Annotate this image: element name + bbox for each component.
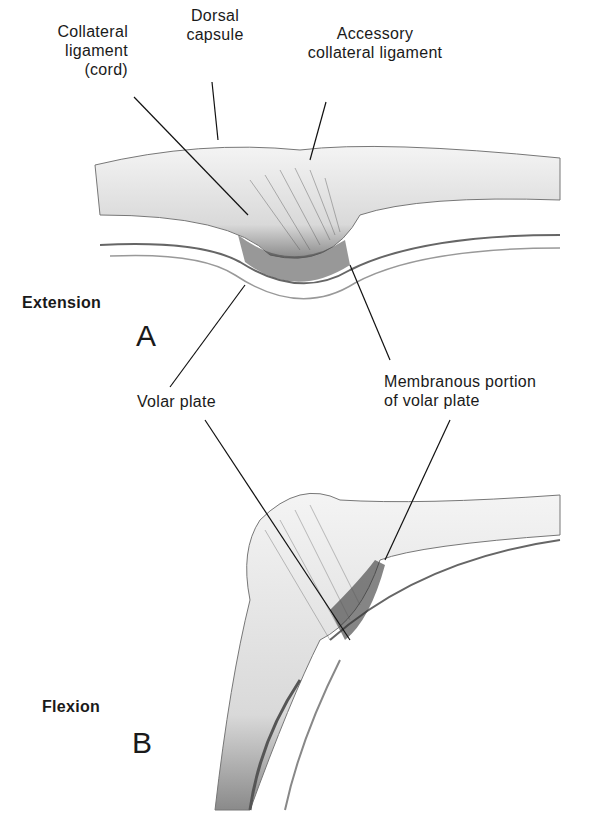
extension-label: Extension — [22, 293, 101, 312]
panel-b-letter: B — [132, 727, 152, 759]
panel-a-letter: A — [136, 320, 156, 352]
extension-joint-drawing — [95, 146, 560, 298]
flexion-label: Flexion — [42, 697, 100, 716]
flexion-joint-drawing — [215, 493, 560, 810]
dorsal-capsule-label: Dorsal capsule — [170, 6, 260, 44]
label-line: Membranous portion — [384, 372, 536, 391]
label-line: Dorsal — [170, 6, 260, 25]
label-line: (cord) — [30, 60, 128, 79]
label-line: ligament — [30, 41, 128, 60]
label-line: Accessory — [290, 24, 460, 43]
collateral-ligament-label: Collateral ligament (cord) — [30, 22, 128, 79]
membranous-portion-label: Membranous portion of volar plate — [384, 372, 536, 410]
label-line: collateral ligament — [290, 43, 460, 62]
volar-plate-label: Volar plate — [137, 392, 216, 411]
label-line: Collateral — [30, 22, 128, 41]
accessory-collateral-ligament-label: Accessory collateral ligament — [290, 24, 460, 62]
label-line: of volar plate — [384, 391, 536, 410]
label-line: capsule — [170, 25, 260, 44]
